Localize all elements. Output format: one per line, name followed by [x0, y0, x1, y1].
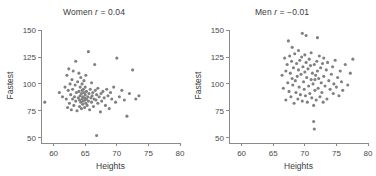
data-point — [291, 77, 294, 80]
data-point — [330, 73, 333, 76]
data-point — [344, 63, 347, 66]
data-point — [70, 78, 73, 81]
data-point — [128, 92, 131, 95]
women-points — [43, 50, 140, 137]
men-ytick-label: 100 — [211, 80, 225, 89]
data-point — [308, 92, 311, 95]
data-point — [308, 58, 311, 61]
data-point — [103, 96, 106, 99]
data-point — [336, 76, 339, 79]
data-point — [304, 94, 307, 97]
data-point — [313, 127, 316, 130]
data-point — [310, 96, 313, 99]
data-point — [332, 82, 335, 85]
data-point — [88, 108, 91, 111]
data-point — [325, 97, 328, 100]
data-point — [79, 86, 82, 89]
data-point — [74, 100, 77, 103]
data-point — [331, 65, 334, 68]
data-point — [299, 93, 302, 96]
data-point — [96, 87, 99, 90]
data-point — [287, 90, 290, 93]
data-point — [293, 52, 296, 55]
data-point — [115, 57, 118, 60]
data-point — [69, 93, 72, 96]
data-point — [335, 86, 338, 89]
men-xaxis-title: Heights — [284, 161, 313, 171]
data-point — [84, 93, 87, 96]
data-point — [105, 88, 108, 91]
data-point — [297, 49, 300, 52]
women-ytick-label: 150 — [23, 26, 37, 35]
data-point — [307, 84, 310, 87]
data-point — [90, 81, 93, 84]
data-point — [82, 79, 85, 82]
data-point — [61, 95, 64, 98]
data-point — [291, 46, 294, 49]
data-point — [346, 83, 349, 86]
data-point — [326, 61, 329, 64]
data-point — [137, 94, 140, 97]
data-point — [310, 78, 313, 81]
data-point — [94, 98, 97, 101]
data-point — [91, 91, 94, 94]
data-point — [77, 90, 80, 93]
data-point — [282, 87, 285, 90]
data-point — [77, 72, 80, 75]
men-xtick-label: 60 — [237, 149, 246, 158]
men-xtick-label: 65 — [269, 149, 278, 158]
data-point — [349, 72, 352, 75]
data-point — [311, 82, 314, 85]
data-point — [92, 105, 95, 108]
data-point — [91, 94, 94, 97]
data-point — [68, 102, 71, 105]
data-point — [79, 76, 82, 79]
data-point — [305, 61, 308, 64]
data-point — [66, 106, 69, 109]
data-point — [312, 120, 315, 123]
data-point — [81, 103, 84, 106]
data-point — [323, 84, 326, 87]
data-point — [315, 98, 318, 101]
women-ytick-label: 75 — [27, 107, 36, 116]
data-point — [87, 92, 90, 95]
data-point — [310, 51, 313, 54]
data-point — [75, 109, 78, 112]
data-point — [317, 77, 320, 80]
data-point — [125, 115, 128, 118]
data-point — [337, 94, 340, 97]
data-point — [291, 83, 294, 86]
data-point — [300, 55, 303, 58]
data-point — [316, 69, 319, 72]
men-xtick-label: 70 — [300, 149, 309, 158]
data-point — [84, 86, 87, 89]
women-xtick-label: 80 — [176, 149, 185, 158]
data-point — [292, 66, 295, 69]
men-ytick-label: 75 — [215, 107, 224, 116]
data-point — [306, 67, 309, 70]
data-point — [303, 88, 306, 91]
data-point — [131, 68, 134, 71]
data-point — [339, 69, 342, 72]
data-point — [309, 64, 312, 67]
data-point — [327, 79, 330, 82]
men-ytick-label: 150 — [211, 26, 225, 35]
data-point — [293, 102, 296, 105]
data-point — [104, 104, 107, 107]
data-point — [93, 63, 96, 66]
data-point — [322, 57, 325, 60]
women-yaxis-title: Fastest — [5, 71, 15, 100]
data-point — [110, 97, 113, 100]
data-point — [318, 95, 321, 98]
data-point — [86, 104, 89, 107]
data-point — [71, 88, 74, 91]
women-xtick-label: 60 — [49, 149, 58, 158]
data-point — [67, 67, 70, 70]
data-point — [340, 80, 343, 83]
data-point — [312, 104, 315, 107]
data-point — [325, 68, 328, 71]
data-point — [99, 110, 102, 113]
data-point — [86, 95, 89, 98]
data-point — [315, 60, 318, 63]
data-point — [284, 98, 287, 101]
